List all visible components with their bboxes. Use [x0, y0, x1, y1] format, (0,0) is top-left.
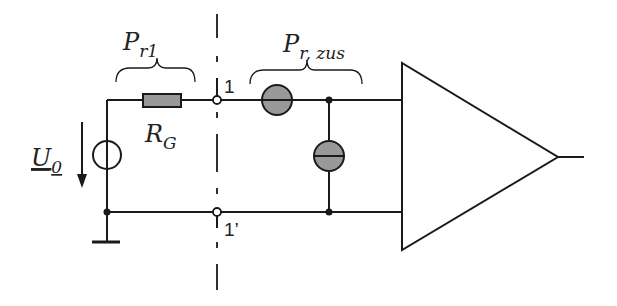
junction-dot-bottom-right [326, 209, 333, 216]
power-left-label: Pr1 [122, 28, 158, 61]
terminal-1-icon [213, 96, 221, 104]
resistor-label: RG [144, 120, 177, 153]
brace-right-icon [250, 60, 362, 84]
terminal-1prime-icon [213, 208, 221, 216]
junction-dot-bottom-left [104, 209, 111, 216]
circuit-diagram: Pr1 Pr, zus RG U0 1 1’ [0, 0, 617, 306]
voltage-arrow-head [77, 174, 87, 188]
resistor-icon [143, 94, 181, 107]
brace-left-icon [116, 58, 195, 82]
junction-dot-top [326, 97, 333, 104]
power-right-label: Pr, zus [282, 30, 345, 63]
amplifier-icon [402, 63, 558, 250]
terminal-1-label: 1 [224, 76, 235, 97]
source-voltage-label: U0 [31, 144, 62, 177]
terminal-1prime-label: 1’ [224, 219, 239, 240]
